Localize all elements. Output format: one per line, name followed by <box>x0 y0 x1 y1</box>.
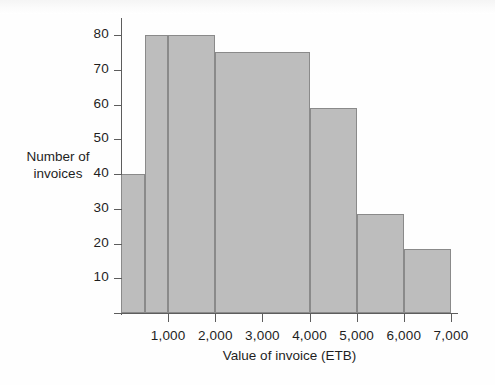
histogram-bar <box>145 35 169 313</box>
x-tick-mark <box>168 313 169 322</box>
paper-texture <box>0 0 495 14</box>
y-axis-title-line2: invoices <box>6 165 110 182</box>
x-axis-title: Value of invoice (ETB) <box>121 348 458 363</box>
histogram-bar <box>215 52 309 313</box>
histogram-bar <box>357 214 404 313</box>
x-tick-mark <box>357 313 358 322</box>
x-tick-mark <box>451 313 452 322</box>
y-axis-title: Number of invoices <box>6 148 110 182</box>
histogram-figure: 1020304050607080 1,0002,0003,0004,0005,0… <box>0 0 495 385</box>
y-tick-label: 70 <box>69 61 109 76</box>
y-tick-label: 80 <box>69 26 109 41</box>
y-tick-mark <box>114 244 122 245</box>
x-tick-label: 7,000 <box>421 328 481 343</box>
y-tick-label: 30 <box>69 200 109 215</box>
x-tick-mark <box>404 313 405 322</box>
x-axis-line <box>121 313 458 314</box>
y-tick-mark <box>114 209 122 210</box>
x-tick-mark <box>215 313 216 322</box>
y-tick-mark <box>114 35 122 36</box>
x-tick-mark <box>262 313 263 322</box>
y-tick-mark <box>114 105 122 106</box>
histogram-bar <box>168 35 215 313</box>
y-tick-label: 10 <box>69 269 109 284</box>
histogram-bar <box>310 108 357 313</box>
y-tick-label: 50 <box>69 130 109 145</box>
y-tick-label: 20 <box>69 235 109 250</box>
y-axis-title-line1: Number of <box>6 148 110 165</box>
x-tick-mark <box>310 313 311 322</box>
y-tick-mark <box>114 139 122 140</box>
y-tick-mark <box>114 70 122 71</box>
histogram-bar <box>404 249 451 313</box>
y-tick-mark-zero <box>114 313 122 314</box>
y-tick-mark <box>114 174 122 175</box>
y-tick-label: 60 <box>69 96 109 111</box>
y-tick-mark <box>114 278 122 279</box>
histogram-bar <box>121 174 145 313</box>
